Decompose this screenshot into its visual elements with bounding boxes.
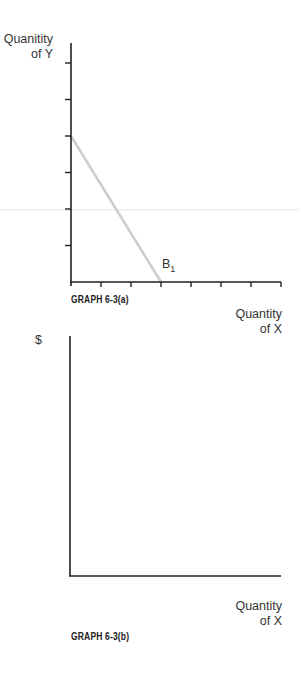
budget-line-b1 [71,136,161,282]
charts-canvas [0,0,299,677]
